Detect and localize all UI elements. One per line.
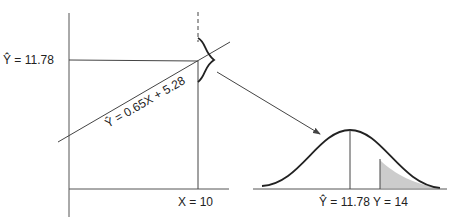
scatter-plot-panel: Ŷ = 11.78 Ŷ = 0.65X + 5.28 X = 10 (3, 12, 230, 217)
regression-line (58, 42, 230, 142)
small-normal-curve (198, 38, 214, 82)
y-hat-label: Ŷ = 11.78 (3, 52, 54, 67)
normal-curve (262, 130, 440, 188)
regression-equation-label: Ŷ = 0.65X + 5.28 (102, 72, 188, 130)
x-value-label: X = 10 (178, 195, 213, 209)
y-value-label: Y = 14 (373, 195, 408, 209)
mean-label: Ŷ = 11.78 (319, 194, 370, 209)
regression-diagram: Ŷ = 11.78 Ŷ = 0.65X + 5.28 X = 10 Ŷ = 11… (0, 0, 459, 224)
y-hat-guide-line (69, 60, 198, 61)
normal-distribution-panel: Ŷ = 11.78 Y = 14 (253, 130, 447, 209)
arrow-to-distribution (217, 72, 320, 134)
